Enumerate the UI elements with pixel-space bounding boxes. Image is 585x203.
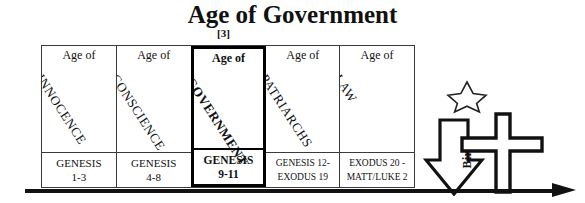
age-column-patriarchs[interactable]: Age of PATRIARCHS GENESIS 12- EXODUS 19 xyxy=(266,46,340,187)
reference-line-1: GENESIS 12- xyxy=(266,156,339,170)
column-rotated-name-wrap: CONSCIENCE xyxy=(117,66,191,156)
column-age-name: INNOCENCE xyxy=(42,72,89,147)
column-age-name: PATRIARCHS xyxy=(266,72,314,150)
column-scripture-reference: EXODUS 20 - MATT/LUKE 2 xyxy=(340,156,414,184)
timeline-baseline xyxy=(25,189,557,193)
column-scripture-reference: GENESIS 9-11 xyxy=(194,153,264,181)
column-footer-divider xyxy=(340,152,414,153)
reference-line-1: EXODUS 20 - xyxy=(340,156,414,170)
reference-line-2: 9-11 xyxy=(194,167,264,181)
column-rotated-name-wrap: LAW xyxy=(340,66,414,156)
dispensation-timeline-chart: Age of Government [3] Age of INNOCENCE G… xyxy=(0,0,585,203)
column-footer-divider xyxy=(42,152,116,153)
page-title: Age of Government xyxy=(0,1,585,28)
column-rotated-name-wrap: PATRIARCHS xyxy=(266,66,339,156)
column-rotated-name-wrap: GOVERNMENT xyxy=(194,69,264,159)
age-column-innocence[interactable]: Age of INNOCENCE GENESIS 1-3 xyxy=(42,46,117,187)
column-rotated-name-wrap: INNOCENCE xyxy=(42,66,116,156)
age-column-conscience[interactable]: Age of CONSCIENCE GENESIS 4-8 xyxy=(117,46,192,187)
reference-line-1: GENESIS xyxy=(194,153,264,167)
column-footer-divider xyxy=(194,148,264,150)
page-subtitle: [3] xyxy=(0,27,447,39)
column-head-label: Age of xyxy=(117,48,191,63)
column-age-name: CONSCIENCE xyxy=(117,72,168,153)
ages-table: Age of INNOCENCE GENESIS 1-3 Age of CONS… xyxy=(41,45,415,188)
reference-line-1: GENESIS xyxy=(117,156,191,170)
column-head-label: Age of xyxy=(340,48,414,63)
column-head-label: Age of xyxy=(194,51,264,66)
reference-line-1: GENESIS xyxy=(42,156,116,170)
column-scripture-reference: GENESIS 4-8 xyxy=(117,156,191,184)
timeline-arrow-icon xyxy=(552,183,576,197)
column-head-label: Age of xyxy=(42,48,116,63)
column-age-name: LAW xyxy=(340,72,359,105)
reference-line-2: EXODUS 19 xyxy=(266,170,339,184)
reference-line-2: MATT/LUKE 2 xyxy=(340,170,414,184)
column-scripture-reference: GENESIS 12- EXODUS 19 xyxy=(266,156,339,184)
star-icon xyxy=(444,80,490,114)
age-column-law[interactable]: Age of LAW EXODUS 20 - MATT/LUKE 2 xyxy=(340,46,414,187)
column-footer-divider xyxy=(117,152,191,153)
column-scripture-reference: GENESIS 1-3 xyxy=(42,156,116,184)
reference-line-2: 1-3 xyxy=(42,170,116,184)
age-column-government[interactable]: Age of GOVERNMENT GENESIS 9-11 xyxy=(191,46,267,187)
column-head-label: Age of xyxy=(266,48,339,63)
column-footer-divider xyxy=(266,152,339,153)
reference-line-2: 4-8 xyxy=(117,170,191,184)
cross-icon xyxy=(458,112,546,194)
